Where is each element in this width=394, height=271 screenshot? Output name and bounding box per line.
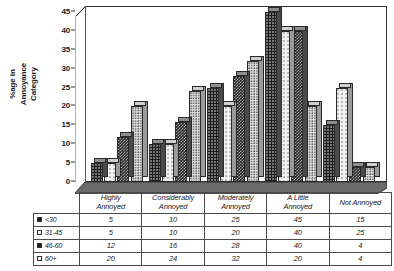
bar-side-face [201, 86, 206, 177]
bar-group [323, 6, 381, 182]
data-cell: 20 [204, 227, 266, 240]
data-cell: 10 [142, 214, 204, 227]
column-header: ModeratelyAnnoyed [204, 193, 266, 214]
series-legend-label: 31-45 [34, 227, 80, 240]
bar-side-face [219, 83, 224, 177]
column-header: ConsiderablyAnnoyed [142, 193, 204, 214]
bar-top-face [308, 101, 320, 106]
bar-front-face [323, 125, 335, 182]
bar-top-face [236, 71, 248, 76]
bar-top-face [134, 101, 146, 106]
bar-side-face [290, 26, 295, 177]
y-tick-label: 30 [62, 63, 71, 72]
bar [207, 88, 219, 182]
bar-side-face [303, 26, 308, 177]
bar [91, 163, 103, 182]
table-row: <30510254515 [34, 214, 392, 227]
bar-top-face [294, 26, 306, 31]
bar-side-face [259, 56, 264, 177]
bar-series-container [75, 6, 387, 194]
column-header: A LittleAnnoyed [267, 193, 329, 214]
bar-top-face [210, 83, 222, 88]
data-cell: 25 [329, 227, 391, 240]
bar-front-face [207, 88, 219, 182]
table-row: 46-60121628404 [34, 240, 392, 253]
series-legend-label: 46-60 [34, 240, 80, 253]
bar-side-face [174, 139, 179, 177]
data-cell: 32 [204, 253, 266, 266]
series-legend-label: 60+ [34, 253, 80, 266]
bar-front-face [91, 163, 103, 182]
bar-side-face [317, 101, 322, 177]
bar-top-face [107, 158, 119, 163]
series-name: 31-45 [45, 229, 62, 236]
y-tick-label: 10 [62, 139, 71, 148]
y-tick-label: 45 [62, 7, 71, 16]
bar-top-face [250, 56, 262, 61]
legend-swatch-icon [37, 230, 42, 235]
bar-side-face [143, 101, 148, 177]
data-cell: 5 [80, 227, 142, 240]
bar-top-face [165, 139, 177, 144]
bar-group [149, 6, 207, 182]
series-name: <30 [45, 216, 56, 223]
data-cell: 10 [142, 227, 204, 240]
legend-swatch-icon [37, 217, 42, 222]
data-cell: 45 [267, 214, 329, 227]
annoyance-bar-chart-figure: %age in Annoyance Category 0510152025303… [0, 0, 394, 271]
plot-area [75, 6, 387, 188]
bar-top-face [152, 139, 164, 144]
bar-top-face [94, 158, 106, 163]
series-legend-label: <30 [34, 214, 80, 227]
bar-side-face [348, 83, 353, 177]
bar-top-face [326, 120, 338, 125]
y-tick-label: 20 [62, 101, 71, 110]
y-tick-label: 5 [66, 158, 70, 167]
bar-top-face [268, 7, 280, 12]
column-header: Not Annoyed [329, 193, 391, 214]
bar [265, 12, 277, 182]
data-cell: 25 [204, 214, 266, 227]
table-corner-cell [34, 193, 80, 214]
y-tick-label: 25 [62, 82, 71, 91]
y-tick-label: 0 [66, 177, 70, 186]
data-cell: 4 [329, 253, 391, 266]
bar-group [207, 6, 265, 182]
data-cell: 16 [142, 240, 204, 253]
data-cell: 28 [204, 240, 266, 253]
bar-top-face [120, 132, 132, 137]
bar-front-face [149, 144, 161, 182]
bar [149, 144, 161, 182]
bar-side-face [129, 132, 134, 177]
data-cell: 40 [267, 240, 329, 253]
y-tick-label: 40 [62, 25, 71, 34]
series-name: 46-60 [45, 242, 62, 249]
bar-front-face [265, 12, 277, 182]
column-header: HighlyAnnoyed [80, 193, 142, 214]
y-tick-label: 35 [62, 44, 71, 53]
bar-side-face [232, 101, 237, 177]
y-tick-label: 15 [62, 120, 71, 129]
y-axis-title: %age in Annoyance Category [0, 29, 48, 139]
bar-side-face [335, 120, 340, 177]
data-cell: 4 [329, 240, 391, 253]
bar-group [265, 6, 323, 182]
bar-side-face [187, 117, 192, 177]
bar-top-face [366, 162, 378, 167]
table-header-row: HighlyAnnoyedConsiderablyAnnoyedModerate… [34, 193, 392, 214]
bar-top-face [339, 83, 351, 88]
legend-swatch-icon [37, 243, 42, 248]
data-cell: 20 [267, 253, 329, 266]
bar [323, 125, 335, 182]
table-row: 60+202432204 [34, 253, 392, 266]
data-cell: 12 [80, 240, 142, 253]
data-table-body: HighlyAnnoyedConsiderablyAnnoyedModerate… [34, 193, 392, 266]
data-cell: 40 [267, 227, 329, 240]
y-axis-tick-labels: 051015202530354045 [45, 0, 75, 188]
table-row: 31-45510204025 [34, 227, 392, 240]
bar-side-face [245, 71, 250, 177]
bar-top-face [192, 86, 204, 91]
bar-top-face [281, 26, 293, 31]
series-name: 60+ [45, 255, 56, 262]
data-cell: 24 [142, 253, 204, 266]
